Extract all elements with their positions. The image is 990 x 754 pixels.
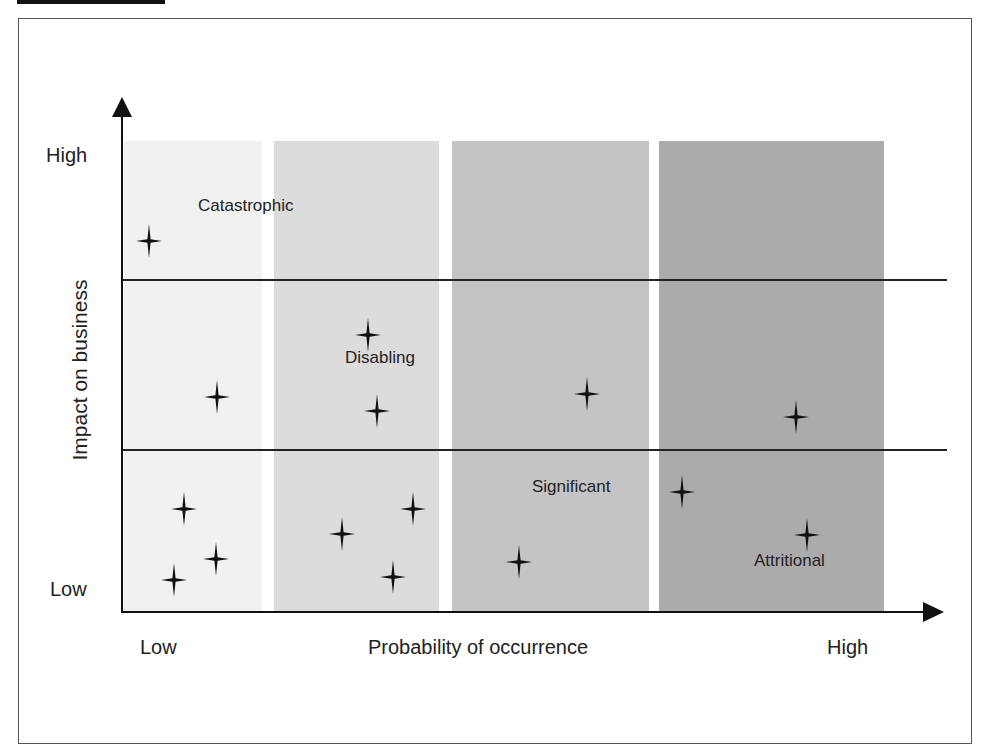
star-marker-icon [171,492,197,526]
zone-label-attritional: Attritional [754,551,825,571]
star-marker-icon [364,394,390,428]
star-marker-icon [136,224,162,258]
x-axis-title: Probability of occurrence [368,636,588,659]
zone-label-significant: Significant [532,477,610,497]
star-marker-icon [380,560,406,594]
arrow-up-icon [112,97,132,117]
y-axis-title: Impact on business [68,280,92,461]
header-bar [17,0,165,4]
star-marker-icon [204,380,230,414]
y-axis [121,110,123,613]
x-tick-high: High [827,636,868,659]
arrow-right-icon [923,602,944,622]
threshold-line-lower [122,449,947,451]
y-tick-low: Low [50,578,87,601]
star-marker-icon [161,563,187,597]
star-marker-icon [329,517,355,551]
y-tick-high: High [46,144,87,167]
star-marker-icon [203,542,229,576]
probability-band-2 [274,141,439,612]
threshold-line-upper [122,279,947,281]
star-marker-icon [400,492,426,526]
star-marker-icon [355,318,381,352]
x-tick-low: Low [140,636,177,659]
zone-label-catastrophic: Catastrophic [198,196,293,216]
star-marker-icon [783,400,809,434]
star-marker-icon [506,545,532,579]
probability-band-3 [452,141,649,612]
star-marker-icon [669,475,695,509]
star-marker-icon [794,518,820,552]
x-axis [121,611,933,613]
star-marker-icon [574,377,600,411]
probability-band-4 [659,141,884,612]
